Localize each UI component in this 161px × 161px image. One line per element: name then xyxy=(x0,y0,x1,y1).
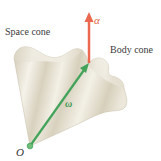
body-cone-label: Body cone xyxy=(110,44,153,55)
origin-point xyxy=(27,143,33,149)
omega-label: ω xyxy=(65,98,72,109)
space-cone-label: Space cone xyxy=(5,26,50,37)
origin-label: O xyxy=(16,146,24,158)
alpha-label: α xyxy=(94,14,100,26)
cone-diagram xyxy=(0,0,161,161)
